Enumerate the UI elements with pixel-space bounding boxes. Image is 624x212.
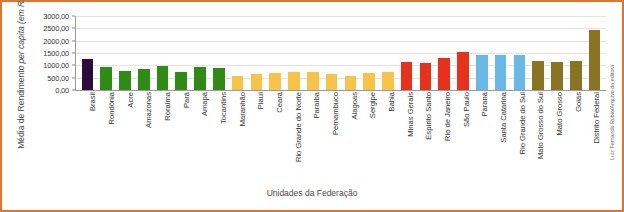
category-slot: Paraná (469, 92, 488, 168)
x-axis-category-label: Distrito Federal (593, 92, 601, 143)
bar[interactable] (457, 52, 469, 90)
bar-slot (435, 16, 454, 90)
bar-slot (191, 16, 210, 90)
bar[interactable] (251, 74, 263, 90)
bar[interactable] (175, 72, 187, 90)
bar-slot (322, 16, 341, 90)
bar[interactable] (495, 55, 507, 90)
bar-slot (266, 16, 285, 90)
bar-slot (529, 16, 548, 90)
bar[interactable] (232, 76, 244, 90)
category-slot: Goiás (562, 92, 581, 168)
bar-slot (228, 16, 247, 90)
category-slot: Roraima (152, 92, 171, 168)
category-slot: Sergipe (357, 92, 376, 168)
category-slot: Alagoas (338, 92, 357, 168)
category-slot: Espírito Santo (413, 92, 432, 168)
category-slot: Santa Catarina (488, 92, 507, 168)
bar-slot (303, 16, 322, 90)
category-slot: Paraíba (301, 92, 320, 168)
bar[interactable] (326, 74, 338, 90)
bar-slot (209, 16, 228, 90)
y-axis-tick-label: 3000,00 (43, 12, 69, 21)
y-axis-tick-label: 1000,00 (43, 61, 69, 70)
category-slot: Ceará (264, 92, 283, 168)
bar-series (76, 16, 606, 90)
bar[interactable] (438, 58, 450, 90)
bar-slot (566, 16, 585, 90)
category-slot: Pará (170, 92, 189, 168)
bar[interactable] (382, 72, 394, 90)
bar-slot (379, 16, 398, 90)
bar-slot (472, 16, 491, 90)
bar-slot (153, 16, 172, 90)
bar-slot (116, 16, 135, 90)
bar-slot (397, 16, 416, 90)
category-slot: Acre (114, 92, 133, 168)
y-axis-title-line1: Média de Rendimento (16, 66, 26, 149)
bar-slot (285, 16, 304, 90)
bar-slot (341, 16, 360, 90)
bar-slot (134, 16, 153, 90)
bar[interactable] (551, 62, 563, 90)
category-slot: Bahia (376, 92, 395, 168)
bar[interactable] (401, 62, 413, 90)
category-slot: São Paulo (450, 92, 469, 168)
credit-wrapper: Luiz Fernando Rubio/Arquivo da editora (609, 10, 621, 160)
y-axis-title: Média de Rendimento per capita (em R$) (4, 8, 38, 134)
bar[interactable] (476, 55, 488, 90)
category-slot: Mato Grosso (544, 92, 563, 168)
bar[interactable] (589, 30, 601, 90)
category-slot: Distrito Federal (581, 92, 600, 168)
bar[interactable] (82, 59, 94, 90)
plot-panel (75, 16, 606, 91)
bar[interactable] (194, 67, 206, 90)
category-slot: Minas Gerais (394, 92, 413, 168)
bar-slot (78, 16, 97, 90)
y-axis-tick-label: 1500,00 (43, 49, 69, 58)
category-slot: Amapá (189, 92, 208, 168)
category-slot: Rio Grande do Norte (282, 92, 301, 168)
bar-slot (491, 16, 510, 90)
bar[interactable] (269, 73, 281, 90)
bar-slot (454, 16, 473, 90)
bar[interactable] (288, 72, 300, 90)
bar[interactable] (420, 63, 432, 90)
category-slot: Tocantins (208, 92, 227, 168)
bar[interactable] (213, 68, 225, 90)
x-axis-category-labels: BrasilRondôniaAcreAmazonasRoraimaParáAma… (75, 92, 602, 168)
bar-slot (172, 16, 191, 90)
bar[interactable] (514, 55, 526, 90)
plot-area: 3000,002500,002000,001500,001000,00500,0… (40, 16, 606, 96)
bar[interactable] (100, 67, 112, 90)
category-slot: Rondônia (96, 92, 115, 168)
bar[interactable] (570, 61, 582, 90)
bar-slot (585, 16, 604, 90)
bar[interactable] (138, 69, 150, 90)
bar[interactable] (119, 71, 131, 90)
bar-slot (97, 16, 116, 90)
category-slot: Maranhão (226, 92, 245, 168)
y-axis-title-line2: per capita (em R$) (16, 0, 26, 64)
bar[interactable] (307, 72, 319, 90)
bar[interactable] (345, 76, 357, 90)
category-slot: Rio de Janeiro (432, 92, 451, 168)
bar-slot (247, 16, 266, 90)
category-slot: Brasil (77, 92, 96, 168)
y-axis-tick-label: 2000,00 (43, 36, 69, 45)
bar-slot (360, 16, 379, 90)
bar-slot (416, 16, 435, 90)
bar-slot (548, 16, 567, 90)
chart-figure: Média de Rendimento per capita (em R$) 3… (0, 0, 624, 212)
bar[interactable] (532, 61, 544, 90)
category-slot: Piauí (245, 92, 264, 168)
y-axis-tick-label: 500,00 (47, 73, 69, 82)
category-slot: Mato Grosso do Sul (525, 92, 544, 168)
y-axis-tick-label: 2500,00 (43, 24, 69, 33)
bar-slot (510, 16, 529, 90)
bar[interactable] (363, 73, 375, 90)
y-axis-tick-label: 0,00 (55, 86, 69, 95)
category-slot: Pernambuco (320, 92, 339, 168)
y-axis-title-wrapper: Média de Rendimento per capita (em R$) (4, 8, 38, 134)
bar[interactable] (157, 66, 169, 90)
